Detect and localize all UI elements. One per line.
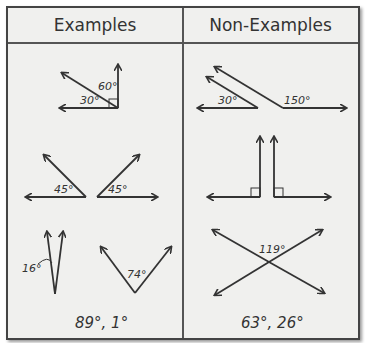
angle-label: 30° xyxy=(218,94,238,107)
angle-label: 30° xyxy=(80,94,100,107)
angle-label: 119° xyxy=(259,243,286,256)
examples-text: 89°, 1° xyxy=(75,314,128,332)
non-example-crossing-lines xyxy=(213,230,324,295)
angle-label: 45° xyxy=(108,183,128,196)
angle-label: 45° xyxy=(54,183,74,196)
angle-diagrams: 60° 30° 45° 45° 16° 74° 89°, 1° 30° 150°… xyxy=(0,0,365,343)
example-angles-45-45 xyxy=(26,155,157,197)
angle-label: 60° xyxy=(98,80,118,93)
non-example-right-angles xyxy=(208,137,330,197)
angle-label: 150° xyxy=(284,94,311,107)
angle-label: 16° xyxy=(22,262,42,275)
non-examples-text: 63°, 26° xyxy=(241,314,304,332)
angle-label: 74° xyxy=(127,268,147,281)
example-angles-16-74 xyxy=(38,232,171,294)
